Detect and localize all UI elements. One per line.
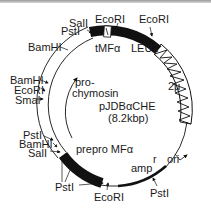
ecori-notch [104,26,112,37]
gene-leu2: LEU2 [131,42,159,54]
site-pstl-right: PstI [150,187,169,199]
plasmid-map: SalI PstI EcoRI EcoRI BamHI BamHI EcoRI … [0,0,211,208]
gene-ori: ori [167,153,179,165]
bottom-thin-line [100,185,118,186]
site-ecori-top1: EcoRI [95,13,125,25]
gene-2micron: 2μ [168,80,180,92]
plasmid-name: pJDBαCHE [99,100,155,112]
gene-prepro: prepro MFα [76,143,134,155]
site-ecori-top2: EcoRI [139,13,169,25]
plasmid-size: (8.2kbp) [108,112,148,124]
site-pstl-top: PstI [61,25,80,37]
site-pstl-bottom: PstI [55,181,74,193]
prepro-band [63,155,102,183]
gene-prochymosin-2: chymosin [72,87,118,99]
gene-amp: amp [131,162,152,174]
site-smai: SmaI [15,94,41,106]
site-sall-lower: SalI [28,147,47,159]
gene-amp-superscript: r [153,153,157,165]
gene-tmf: tMFα [95,42,121,54]
site-ecori-bottom: EcoRI [94,191,124,203]
site-bamhi-1: BamHI [28,41,62,53]
